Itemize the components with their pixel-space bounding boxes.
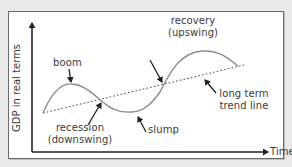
label-trend-line2: trend line (213, 100, 275, 112)
y-axis-label: GDP in real terms (11, 44, 22, 132)
slump-pointer (138, 117, 146, 132)
label-recession-line1: recession (45, 122, 115, 134)
recovery-pointer (150, 60, 162, 82)
label-boom: boom (53, 57, 82, 69)
label-recovery-line2: (upswing) (163, 27, 223, 39)
business-cycle-diagram (0, 0, 292, 167)
label-recession: recession (downswing) (45, 122, 115, 146)
label-trend-line1: long term (213, 88, 275, 100)
boom-pointer (69, 69, 71, 82)
label-recession-line2: (downswing) (45, 134, 115, 146)
label-recovery: recovery (upswing) (163, 15, 223, 39)
label-slump: slump (148, 124, 179, 136)
x-axis-label: Time (270, 146, 292, 158)
label-recovery-line1: recovery (163, 15, 223, 27)
label-trend-line: long term trend line (213, 88, 275, 112)
